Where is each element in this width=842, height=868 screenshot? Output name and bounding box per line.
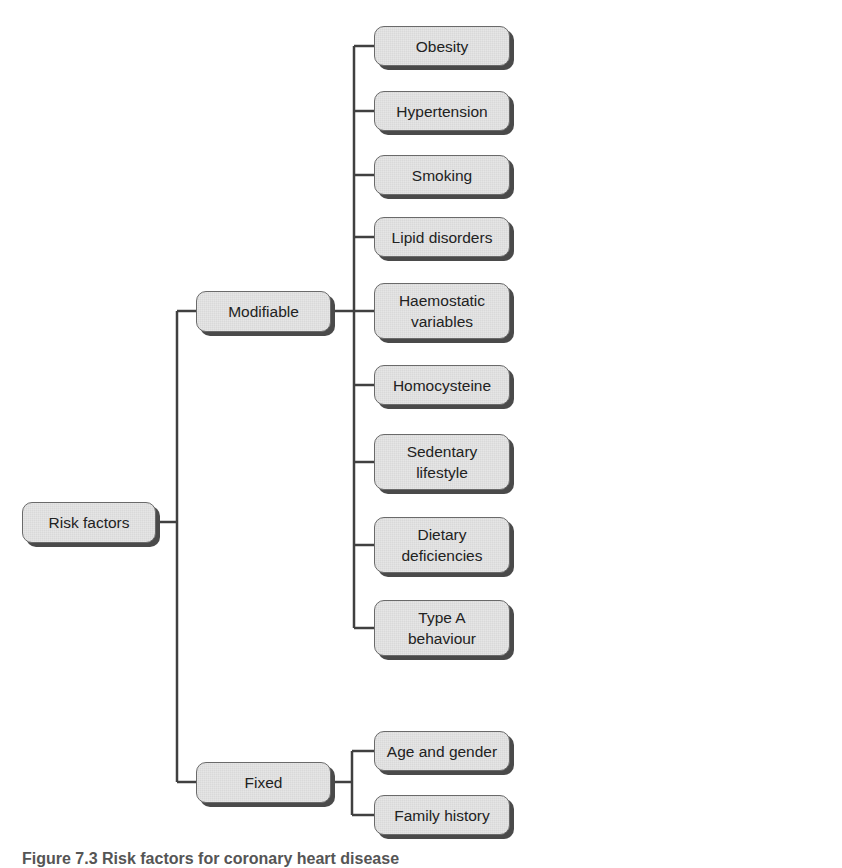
node-sedentary-lifestyle: Sedentary lifestyle	[374, 434, 510, 490]
node-homocysteine: Homocysteine	[374, 365, 510, 405]
node-obesity: Obesity	[374, 26, 510, 66]
node-smoking: Smoking	[374, 155, 510, 195]
node-haemostatic-variables: Haemostatic variables	[374, 283, 510, 339]
node-dietary-deficiencies: Dietary deficiencies	[374, 517, 510, 573]
node-risk-factors: Risk factors	[22, 502, 156, 543]
node-modifiable: Modifiable	[196, 291, 331, 332]
node-family-history: Family history	[374, 795, 510, 835]
node-hypertension: Hypertension	[374, 91, 510, 131]
node-type-a-behaviour: Type A behaviour	[374, 600, 510, 656]
node-lipid-disorders: Lipid disorders	[374, 217, 510, 257]
node-age-and-gender: Age and gender	[374, 731, 510, 771]
node-fixed: Fixed	[196, 762, 331, 803]
figure-caption: Figure 7.3 Risk factors for coronary hea…	[22, 850, 399, 868]
